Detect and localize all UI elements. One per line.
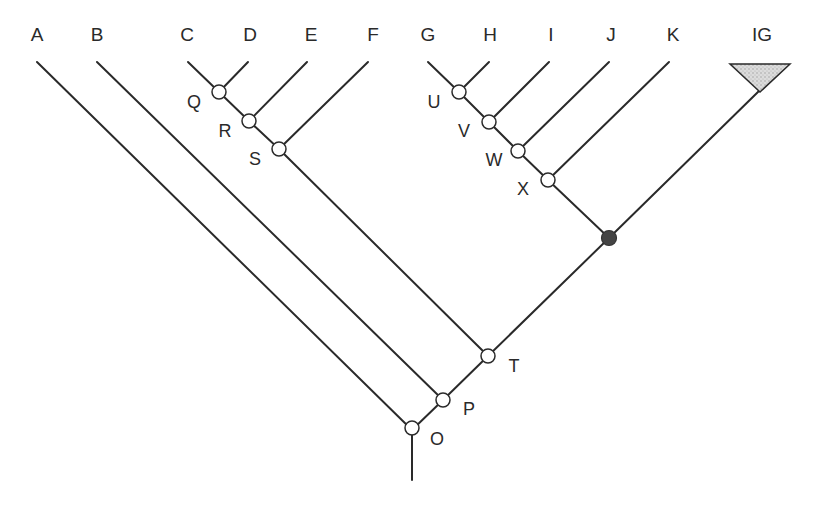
node-label-V: V xyxy=(458,121,470,141)
node-U xyxy=(452,85,466,99)
tip-label-D: D xyxy=(243,24,257,45)
node-label-O: O xyxy=(430,429,444,449)
node-T xyxy=(481,349,495,363)
tip-label-I: I xyxy=(548,24,553,45)
node-labels: Q R S U V W X T P O xyxy=(187,92,529,449)
tip-label-F: F xyxy=(367,24,379,45)
node-label-Q: Q xyxy=(187,92,201,112)
node-W xyxy=(511,144,525,158)
branches xyxy=(37,62,760,480)
branch-ancestor-X xyxy=(548,180,609,238)
node-X xyxy=(541,173,555,187)
branch-B xyxy=(97,62,443,400)
branch-E xyxy=(249,62,307,121)
tip-label-H: H xyxy=(483,24,497,45)
branch-K xyxy=(548,62,669,180)
tip-label-K: K xyxy=(667,24,680,45)
node-ancestor-highlighted xyxy=(602,231,617,246)
node-label-U: U xyxy=(428,92,441,112)
node-label-S: S xyxy=(249,149,261,169)
tip-labels: A B C D E F G H I J K IG xyxy=(31,24,772,45)
node-label-X: X xyxy=(517,179,529,199)
node-label-T: T xyxy=(509,356,520,376)
branch-J xyxy=(518,62,609,151)
branch-T-ancestor xyxy=(488,238,609,356)
node-R xyxy=(242,114,256,128)
branch-T-S xyxy=(279,149,488,356)
tip-label-IG: IG xyxy=(752,24,772,45)
cladogram: A B C D E F G H I J K IG Q R S U V W X T… xyxy=(0,0,818,510)
node-label-R: R xyxy=(219,121,232,141)
branch-A xyxy=(37,62,412,430)
tip-label-A: A xyxy=(31,24,44,45)
collapsed-clade-IG xyxy=(730,64,790,92)
branch-P-T xyxy=(443,356,488,400)
tip-label-J: J xyxy=(606,24,616,45)
tip-label-G: G xyxy=(421,24,436,45)
branch-F xyxy=(279,62,368,149)
nodes xyxy=(212,85,617,435)
tip-label-C: C xyxy=(180,24,194,45)
node-label-W: W xyxy=(486,150,503,170)
node-S xyxy=(272,142,286,156)
node-P xyxy=(436,393,450,407)
node-O xyxy=(405,421,419,435)
node-label-P: P xyxy=(463,399,475,419)
tip-label-E: E xyxy=(305,24,318,45)
branch-IG xyxy=(609,90,760,238)
node-Q xyxy=(212,85,226,99)
tip-label-B: B xyxy=(91,24,104,45)
branch-I xyxy=(489,62,549,122)
node-V xyxy=(482,115,496,129)
